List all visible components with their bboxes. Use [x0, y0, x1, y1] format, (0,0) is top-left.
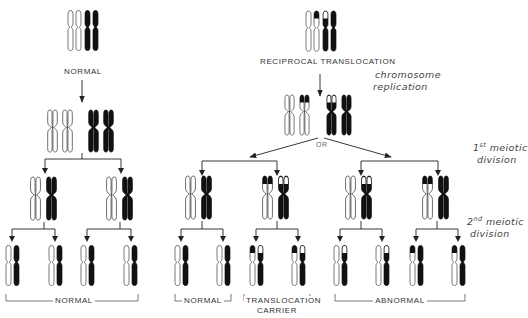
- normal-pathway: [6, 11, 138, 302]
- arrow-or-right: [324, 138, 391, 157]
- arrow-or-left: [250, 138, 318, 157]
- outcome-label-normal-left: NORMAL: [52, 296, 96, 305]
- outcome-label-normal-mid: NORMAL: [181, 296, 225, 305]
- normal-replicated-chromosomes: [48, 110, 114, 152]
- translocation-gametes: [175, 246, 465, 286]
- translocation-replicated-chromosomes: [285, 95, 351, 135]
- label-chromosome-replication: chromosome replication: [373, 69, 441, 93]
- normal-meiosis1-products: [31, 177, 133, 220]
- normal-parent-chromosomes: [68, 11, 98, 51]
- label-or: OR: [316, 141, 328, 148]
- translocation-pathway: [175, 11, 465, 301]
- outcome-label-translocation-carrier: TRANSLOCATION CARRIER: [244, 296, 310, 316]
- label-second-meiotic-division: 2nd meiotic division: [467, 213, 524, 240]
- label-first-meiotic-division: 1st meiotic division: [473, 139, 528, 166]
- label-reciprocal-translocation: RECIPROCAL TRANSLOCATION: [260, 57, 380, 66]
- label-normal-parent: NORMAL: [62, 67, 104, 76]
- normal-gametes: [6, 246, 137, 286]
- translocation-meiosis1-products: [186, 176, 449, 219]
- outcome-label-abnormal: ABNORMAL: [370, 296, 430, 305]
- translocation-parent-chromosomes: [306, 11, 336, 51]
